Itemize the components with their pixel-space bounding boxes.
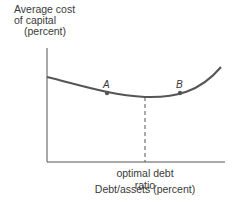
point-a-label: A (102, 79, 110, 90)
x-axis-label: Debt/assets (percent) (85, 183, 205, 195)
point-a (105, 91, 109, 95)
point-b-label: B (176, 79, 183, 90)
point-b (178, 91, 182, 95)
cost-curve (47, 67, 221, 97)
